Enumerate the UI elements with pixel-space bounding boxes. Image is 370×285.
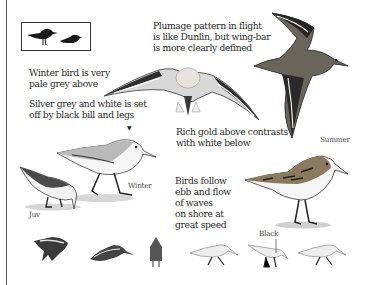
silhouette-box	[21, 22, 91, 51]
summer-flight-bird-illustration	[252, 8, 362, 143]
sequence-bird-2	[90, 245, 134, 261]
page-margin-rule	[6, 0, 7, 285]
sequence-bird-4	[190, 245, 238, 265]
juvenile-feeding-bird-illustration	[18, 163, 83, 213]
winter-flight-bird-illustration	[104, 58, 264, 128]
two-bird-silhouettes-icon	[22, 23, 92, 52]
sequence-bird-5	[248, 239, 288, 267]
behaviour-sequence-illustrations	[30, 235, 360, 271]
sequence-bird-3	[150, 237, 162, 267]
field-guide-page: Plumage pattern in flight is like Dunlin…	[0, 0, 370, 285]
sequence-bird-1	[34, 237, 68, 261]
caption-ebb-flow: Birds follow ebb and flow of waves on sh…	[175, 175, 231, 230]
summer-standing-bird-illustration	[243, 150, 353, 230]
caption-winter-pale: Winter bird is very pale grey above	[29, 67, 110, 89]
sequence-bird-6	[298, 245, 346, 265]
